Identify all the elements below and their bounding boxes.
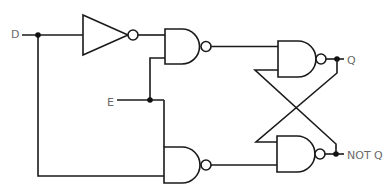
nand-gate-q bbox=[278, 41, 326, 77]
wire-e bbox=[117, 58, 165, 147]
label-q: Q bbox=[347, 54, 356, 67]
junction-e bbox=[147, 97, 153, 103]
inverter-gate bbox=[83, 15, 138, 55]
wire-d bbox=[22, 35, 164, 176]
junction-d bbox=[35, 32, 41, 38]
nand-gate-not-q bbox=[277, 136, 325, 172]
label-e: E bbox=[107, 96, 114, 109]
nand-gate-bottom bbox=[164, 147, 211, 183]
label-not-q: NOT Q bbox=[347, 149, 383, 162]
gated-d-latch-diagram: D E Q NOT Q bbox=[0, 0, 391, 194]
label-d: D bbox=[11, 28, 19, 41]
nand-gate-top bbox=[165, 29, 211, 64]
